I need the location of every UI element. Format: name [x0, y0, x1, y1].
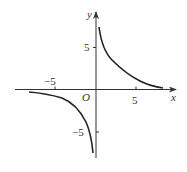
y-axis-label: y [86, 8, 92, 20]
x-tick-label-neg5: −5 [44, 75, 56, 87]
function-graph: −5 5 5 −5 x y O [0, 0, 187, 172]
x-axis-label: x [170, 91, 176, 103]
curve-right-branch [99, 27, 163, 88]
y-tick-label-5: 5 [84, 41, 90, 53]
x-tick-label-5: 5 [132, 94, 138, 106]
origin-label: O [82, 91, 90, 103]
y-tick-label-neg5: −5 [72, 126, 84, 138]
